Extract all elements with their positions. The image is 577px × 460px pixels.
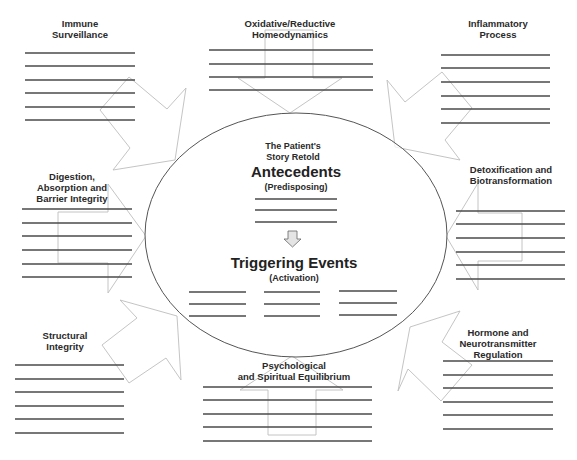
detox-lines (456, 211, 565, 279)
node-title-detox: Detoxification and Biotransformation (470, 164, 552, 186)
triggering-events-label: Triggering Events (231, 254, 358, 271)
hormone-lines (443, 361, 553, 429)
node-title-structural: Structural Integrity (43, 330, 88, 352)
center-heading-line2: Story Retold (266, 152, 320, 163)
node-title-inflammatory: Inflammatory Process (468, 18, 528, 40)
antecedents-subtitle: (Predisposing) (264, 182, 327, 193)
center-heading-line1: The Patient's (265, 141, 321, 152)
node-title-psychological: Psychological and Spiritual Equilibrium (238, 360, 350, 382)
node-title-immune: Immune Surveillance (52, 18, 108, 40)
antecedents-label: Antecedents (251, 163, 341, 180)
functional-medicine-matrix-diagram: Immune Surveillance Oxidative/Reductive … (0, 0, 577, 460)
inflammatory-lines (441, 55, 550, 123)
oxidative-lines (209, 50, 373, 90)
node-title-hormone: Hormone and Neurotransmitter Regulation (459, 327, 538, 360)
arrow-detox-icon (446, 183, 522, 290)
structural-lines (15, 365, 124, 433)
psychological-lines (203, 387, 372, 441)
digestion-lines (22, 209, 132, 277)
node-title-digestion: Digestion, Absorption and Barrier Integr… (36, 171, 107, 204)
node-title-oxidative: Oxidative/Reductive Homeodynamics (245, 18, 336, 40)
diagram-graphics (0, 0, 577, 460)
arrow-structural-icon (102, 300, 181, 383)
triggering-events-subtitle: (Activation) (269, 273, 319, 284)
arrow-immune-icon (100, 77, 186, 170)
arrow-oxidative-icon (238, 30, 342, 113)
immune-lines (25, 53, 135, 120)
